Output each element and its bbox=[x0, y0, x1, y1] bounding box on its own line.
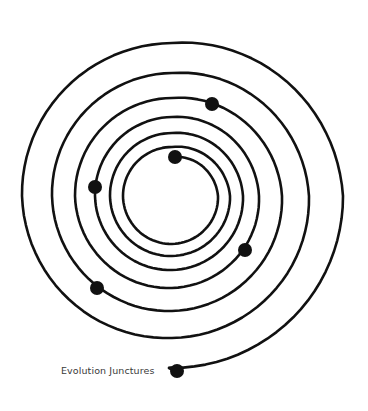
evolution-junctures-label: Evolution Junctures bbox=[61, 365, 155, 376]
juncture-dots bbox=[88, 97, 252, 378]
end-dot bbox=[170, 364, 184, 378]
juncture-dot-3 bbox=[205, 97, 219, 111]
spiral-path bbox=[22, 43, 343, 371]
start-dot bbox=[168, 150, 182, 164]
juncture-dot-4 bbox=[90, 281, 104, 295]
juncture-dot-2 bbox=[88, 180, 102, 194]
juncture-dot-1 bbox=[238, 243, 252, 257]
spiral-diagram bbox=[0, 0, 368, 411]
